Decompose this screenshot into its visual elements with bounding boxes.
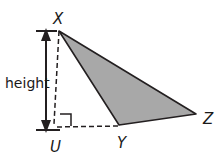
vertex-label-z: Z (202, 110, 214, 128)
vertex-label-x: X (52, 10, 64, 28)
figure-canvas: height X Y Z U (0, 0, 223, 166)
right-angle-marker (60, 114, 71, 126)
base-extension-line-uy (57, 126, 120, 127)
geometry-figure: height X Y Z U (0, 0, 223, 166)
shaded-triangle-xyz (59, 31, 196, 125)
altitude-line-xu (54, 31, 59, 124)
height-label: height (5, 75, 50, 91)
vertex-label-u: U (50, 138, 61, 156)
vertex-label-y: Y (117, 134, 128, 152)
